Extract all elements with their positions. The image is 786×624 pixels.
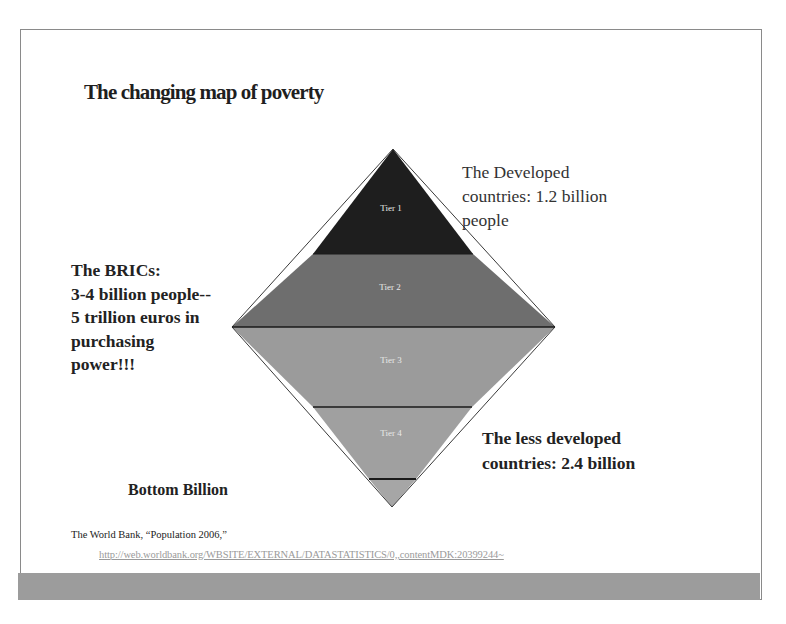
tier-4-shape bbox=[313, 407, 472, 479]
callout-line: The Developed bbox=[462, 160, 607, 184]
callout-line: countries: 1.2 billion bbox=[462, 184, 607, 208]
tier-1-label: Tier 1 bbox=[380, 203, 401, 213]
citation-link[interactable]: http://web.worldbank.org/WBSITE/EXTERNAL… bbox=[99, 549, 504, 560]
tier-2-label: Tier 2 bbox=[379, 282, 400, 292]
tier-1-shape bbox=[313, 149, 473, 254]
callout-line: purchasing bbox=[71, 330, 211, 354]
footer-bar bbox=[18, 573, 760, 600]
tier-4-label: Tier 4 bbox=[380, 428, 401, 438]
bottom-billion-label: Bottom Billion bbox=[128, 478, 228, 502]
citation-text: The World Bank, “Population 2006,” bbox=[71, 529, 227, 540]
developed-countries-callout: The Developed countries: 1.2 billion peo… bbox=[462, 160, 607, 232]
callout-line: 5 trillion euros in bbox=[71, 306, 211, 330]
brics-callout: The BRICs: 3-4 billion people-- 5 trilli… bbox=[71, 259, 211, 377]
tier-3-label: Tier 3 bbox=[380, 355, 401, 365]
tier-5-shape bbox=[369, 479, 416, 507]
less-developed-callout: The less developed countries: 2.4 billio… bbox=[482, 426, 635, 476]
callout-line: The less developed bbox=[482, 426, 635, 451]
callout-line: The BRICs: bbox=[71, 259, 211, 283]
callout-line: countries: 2.4 billion bbox=[482, 451, 635, 476]
callout-line: power!!! bbox=[71, 353, 211, 377]
tier-3-shape bbox=[232, 327, 555, 407]
callout-line: 3-4 billion people-- bbox=[71, 283, 211, 307]
callout-line: people bbox=[462, 208, 607, 232]
